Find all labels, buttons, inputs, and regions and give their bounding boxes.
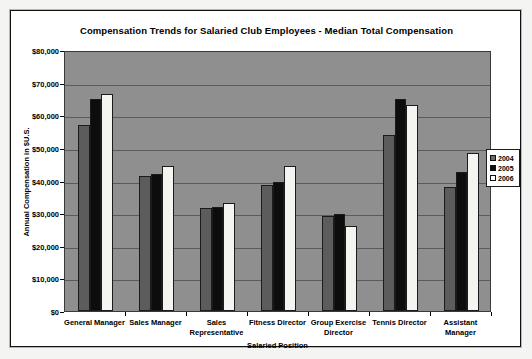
- x-axis-tick-mark: [308, 312, 309, 316]
- x-axis-tick-mark: [430, 312, 431, 316]
- legend-swatch-icon: [490, 155, 496, 161]
- x-axis-tick-label: Sales Manager: [125, 318, 186, 328]
- legend-item-2004: 2004: [490, 153, 516, 163]
- y-axis-tick-label: $80,000: [13, 47, 59, 56]
- y-axis-tick-label: $10,000: [13, 275, 59, 284]
- x-axis-tick-label: Assistant Manager: [430, 318, 491, 338]
- bar-2005-2: [151, 174, 162, 311]
- bar-2005-5: [334, 214, 345, 311]
- bar-2004-3: [200, 208, 211, 311]
- legend-swatch-icon: [490, 165, 496, 171]
- x-axis-tick-label: Sales Representative: [186, 318, 247, 338]
- x-axis-tick-label: Group Exercise Director: [308, 318, 369, 338]
- x-axis-title: Salaried Position: [64, 341, 491, 350]
- chart-frame: Compensation Trends for Salaried Club Em…: [10, 10, 521, 347]
- legend-label: 2006: [498, 175, 514, 182]
- y-axis-tick-mark: [60, 312, 64, 313]
- legend-label: 2005: [498, 165, 514, 172]
- gridline: [65, 150, 490, 151]
- y-axis-tick-label: $20,000: [13, 242, 59, 251]
- x-axis-tick-mark: [186, 312, 187, 316]
- y-axis-tick-label: $50,000: [13, 144, 59, 153]
- gridline: [65, 85, 490, 86]
- bar-2006-1: [101, 94, 112, 311]
- y-axis-tick-label: $60,000: [13, 112, 59, 121]
- bar-2006-7: [467, 153, 478, 311]
- x-axis-tick-label: Tennis Director: [369, 318, 430, 328]
- bar-2004-5: [322, 216, 333, 311]
- legend-label: 2004: [498, 155, 514, 162]
- bar-2004-4: [261, 185, 272, 311]
- bar-2006-5: [345, 226, 356, 311]
- bar-2006-6: [406, 105, 417, 311]
- legend-item-2005: 2005: [490, 163, 516, 173]
- legend-swatch-icon: [490, 175, 496, 181]
- x-axis-tick-mark: [491, 312, 492, 316]
- y-axis-tick-label: $40,000: [13, 177, 59, 186]
- chart-title: Compensation Trends for Salaried Club Em…: [11, 25, 522, 36]
- bar-2005-4: [273, 182, 284, 311]
- y-axis-tick-label: $0: [13, 308, 59, 317]
- bar-2004-6: [383, 135, 394, 311]
- gridline: [65, 117, 490, 118]
- bar-2006-4: [284, 166, 295, 311]
- bar-2005-7: [456, 172, 467, 311]
- x-axis-tick-mark: [247, 312, 248, 316]
- plot-area: [64, 51, 491, 312]
- bar-2004-2: [139, 176, 150, 311]
- y-axis-tick-label: $70,000: [13, 79, 59, 88]
- bar-2006-3: [223, 203, 234, 311]
- x-axis-tick-label: General Manager: [64, 318, 125, 328]
- bar-2005-1: [90, 99, 101, 311]
- bar-2004-7: [444, 187, 455, 311]
- x-axis-tick-label: Fitness Director: [247, 318, 308, 328]
- chart-legend: 200420052006: [486, 149, 520, 187]
- x-axis-tick-mark: [125, 312, 126, 316]
- legend-item-2006: 2006: [490, 173, 516, 183]
- y-axis-tick-label: $30,000: [13, 210, 59, 219]
- bar-2005-6: [395, 99, 406, 311]
- x-axis-tick-mark: [369, 312, 370, 316]
- bar-2004-1: [78, 125, 89, 311]
- bar-2005-3: [212, 207, 223, 311]
- bar-2006-2: [162, 166, 173, 311]
- chart-screenshot: Compensation Trends for Salaried Club Em…: [0, 0, 532, 359]
